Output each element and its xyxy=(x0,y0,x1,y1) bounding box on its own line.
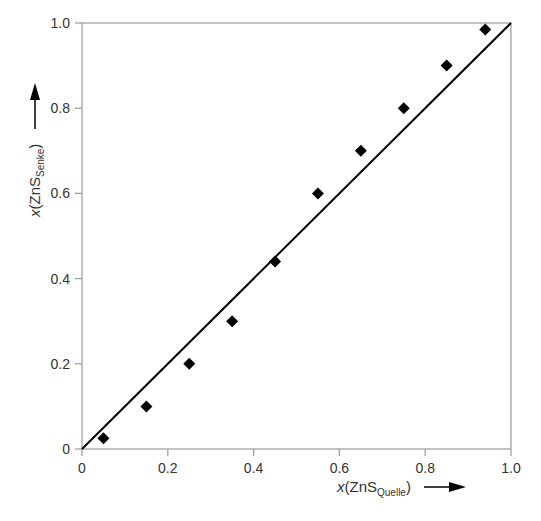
diamond-marker xyxy=(479,23,491,35)
diamond-marker xyxy=(269,256,281,268)
scatter-chart: 00.20.40.60.81.0 00.20.40.60.81.0 x(ZnSQ… xyxy=(0,0,541,521)
diamond-marker xyxy=(312,187,324,199)
y-tick-label: 0.2 xyxy=(51,356,71,372)
arrow-up-icon xyxy=(30,83,40,129)
diamond-marker xyxy=(140,400,152,412)
x-tick-label: 0.8 xyxy=(415,460,435,476)
diamond-marker xyxy=(398,102,410,114)
y-tick-label: 0 xyxy=(62,441,70,457)
y-tick-label: 0.6 xyxy=(51,185,71,201)
y-tick-label: 1.0 xyxy=(51,15,71,31)
diamond-marker xyxy=(355,145,367,157)
x-axis-ticks: 00.20.40.60.81.0 xyxy=(78,449,521,476)
x-axis-title: x(ZnSQuelle) xyxy=(336,478,466,498)
y-axis-ticks: 00.20.40.60.81.0 xyxy=(51,15,82,457)
y-tick-label: 0.4 xyxy=(51,271,71,287)
diamond-marker xyxy=(183,358,195,370)
data-points xyxy=(97,23,491,444)
diamond-marker xyxy=(97,432,109,444)
svg-text:x(ZnSSenke): x(ZnSSenke) xyxy=(26,144,46,218)
x-tick-label: 0.4 xyxy=(244,460,264,476)
arrow-right-icon xyxy=(424,482,466,492)
y-axis-title: x(ZnSSenke) xyxy=(26,83,46,218)
y-tick-label: 0.8 xyxy=(51,100,71,116)
diagonal-line xyxy=(82,23,511,449)
x-tick-label: 0.6 xyxy=(330,460,350,476)
x-tick-label: 1.0 xyxy=(501,460,521,476)
x-tick-label: 0 xyxy=(78,460,86,476)
svg-text:x(ZnSQuelle): x(ZnSQuelle) xyxy=(336,478,411,498)
x-tick-label: 0.2 xyxy=(158,460,178,476)
diamond-marker xyxy=(226,315,238,327)
diamond-marker xyxy=(441,60,453,72)
